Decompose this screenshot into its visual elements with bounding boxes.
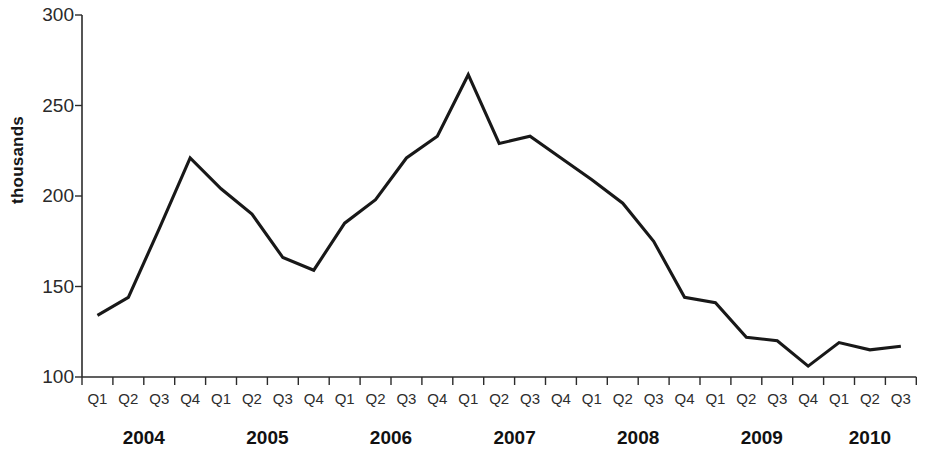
year-label: 2006 (351, 428, 431, 447)
x-tick-label: Q3 (389, 391, 423, 406)
data-series-line (97, 75, 900, 366)
x-tick-label: Q1 (204, 391, 238, 406)
y-tick-label: 150 (28, 277, 74, 296)
x-tick-label: Q3 (513, 391, 547, 406)
x-tick-label: Q4 (791, 391, 825, 406)
x-tick-label: Q2 (235, 391, 269, 406)
y-tick-label: 100 (28, 367, 74, 386)
x-tick-label: Q2 (606, 391, 640, 406)
year-label: 2009 (722, 428, 802, 447)
x-tick-label: Q2 (482, 391, 516, 406)
x-tick-label: Q4 (297, 391, 331, 406)
x-tick-label: Q2 (359, 391, 393, 406)
x-tick-label: Q4 (544, 391, 578, 406)
y-tick-label: 250 (28, 96, 74, 115)
x-tick-label: Q3 (884, 391, 918, 406)
year-label: 2010 (830, 428, 910, 447)
x-tick-label: Q2 (853, 391, 887, 406)
line-chart: thousands 100150200250300 Q1Q2Q3Q4Q1Q2Q3… (0, 0, 926, 461)
x-tick-label: Q4 (420, 391, 454, 406)
x-tick-label: Q2 (729, 391, 763, 406)
x-tick-label: Q3 (637, 391, 671, 406)
year-label: 2004 (104, 428, 184, 447)
y-tick-label: 300 (28, 5, 74, 24)
x-tick-label: Q3 (760, 391, 794, 406)
x-tick-label: Q1 (698, 391, 732, 406)
x-tick-label: Q1 (575, 391, 609, 406)
x-tick-label: Q1 (80, 391, 114, 406)
x-tick-label: Q3 (142, 391, 176, 406)
x-tick-label: Q4 (668, 391, 702, 406)
x-tick-label: Q3 (266, 391, 300, 406)
year-label: 2007 (475, 428, 555, 447)
x-tick-label: Q1 (328, 391, 362, 406)
x-tick-label: Q1 (451, 391, 485, 406)
y-axis-tick-labels: 100150200250300 (24, 0, 74, 461)
x-tick-label: Q2 (111, 391, 145, 406)
y-tick-label: 200 (28, 186, 74, 205)
x-tick-label: Q1 (822, 391, 856, 406)
x-tick-label: Q4 (173, 391, 207, 406)
year-label: 2008 (598, 428, 678, 447)
year-label: 2005 (227, 428, 307, 447)
